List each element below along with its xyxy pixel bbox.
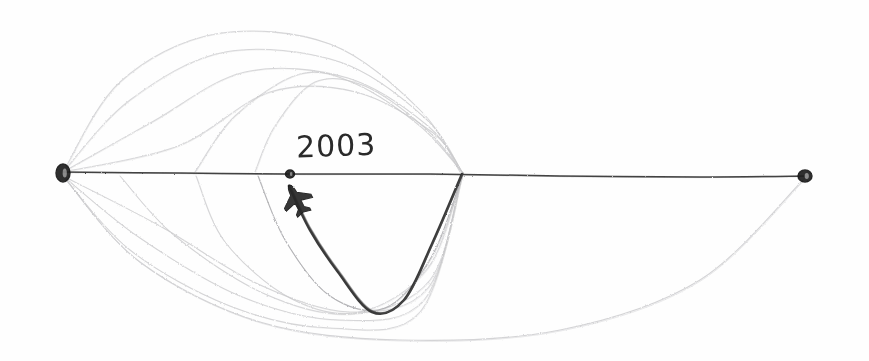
airplane-silhouette <box>276 178 318 221</box>
lower-arc-5 <box>196 176 462 314</box>
airplane-icon-group <box>276 178 318 221</box>
sketch-canvas: 2003 <box>0 0 869 361</box>
upper-arc-1 <box>63 31 460 172</box>
horizon-line-group <box>63 172 805 178</box>
sketch-drawing <box>0 0 869 361</box>
meridian-arc-group <box>63 31 463 331</box>
upper-arc-2-ghost <box>64 50 463 173</box>
left-endpoint-node <box>56 164 70 182</box>
lower-arc-1-ghost <box>64 177 463 331</box>
origin-node-2003-highlight <box>290 172 293 176</box>
left-endpoint-node-highlight <box>63 169 67 178</box>
right-endpoint-node-highlight <box>805 173 809 179</box>
upper-arc-3-ghost <box>64 69 463 173</box>
origin-node-2003 <box>286 170 295 178</box>
dark-descent-curve <box>289 174 462 314</box>
dark-descent-curve-ghost <box>290 173 463 313</box>
airplane-icon <box>276 178 318 221</box>
dark-descent-curve-group <box>289 173 463 313</box>
right-endpoint-node <box>798 170 812 182</box>
upper-arc-3 <box>63 68 462 172</box>
year-label-2003: 2003 <box>295 127 377 165</box>
